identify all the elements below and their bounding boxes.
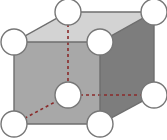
bcc-unit-cell-figure (0, 0, 167, 140)
unit-cell-illustration (0, 0, 167, 140)
atom-corner-back-top-left (55, 0, 81, 25)
atom-body-center (55, 82, 81, 108)
cube-faces (14, 12, 154, 124)
front-face (14, 42, 100, 124)
atom-corner-front-bottom-left (1, 111, 27, 137)
atom-corner-front-top-left (1, 29, 27, 55)
atom-corner-back-top-right (141, 0, 167, 25)
atom-corner-back-bottom-right (141, 82, 167, 108)
atom-corner-front-top-right (87, 29, 113, 55)
atom-corner-front-bottom-right (87, 111, 113, 137)
